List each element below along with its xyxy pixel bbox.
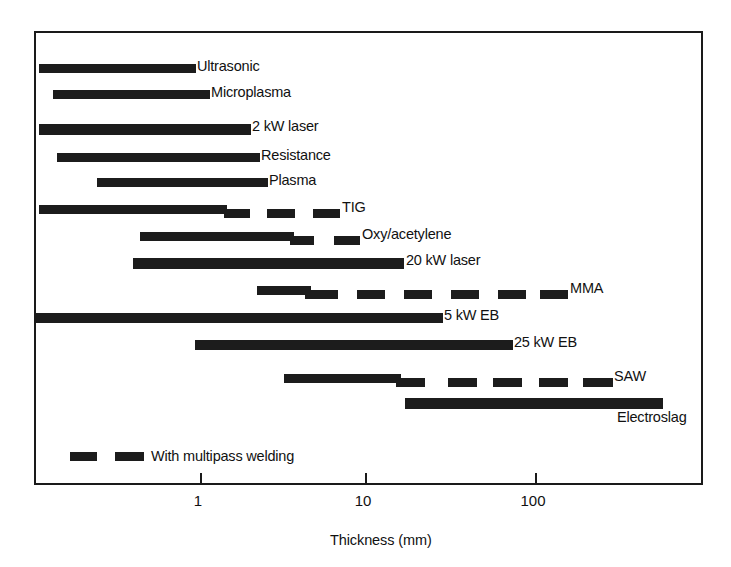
bar-segment-primary [195,340,513,350]
bar-row [36,205,701,227]
legend-swatch [70,452,97,461]
bar-segment-primary [284,374,401,383]
bar-row [36,153,701,175]
bar-segment-primary [39,124,251,135]
bar-row [36,398,701,420]
legend-label: With multipass welding [151,448,294,464]
x-tick-mark [365,473,367,483]
bar-label: 5 kW EB [444,308,499,323]
bar-label: Resistance [261,148,331,163]
bar-segment-multipass [498,290,526,299]
bar-segment-multipass [451,290,479,299]
bar-row [36,258,701,280]
bar-label: Electroslag [617,410,687,425]
bar-segment-primary [39,64,196,73]
bar-segment-multipass [540,290,568,299]
bar-label: MMA [570,281,603,296]
bar-segment-primary [53,90,210,99]
bar-segment-primary [133,258,404,269]
bar-row [36,313,701,335]
bar-segment-primary [257,286,311,295]
bar-segment-multipass [396,378,425,387]
bar-label: Plasma [269,173,316,188]
bar-segment-multipass [539,378,568,387]
bar-segment-multipass [493,378,522,387]
x-tick-mark [535,473,537,483]
bar-segment-multipass [305,290,338,299]
x-tick-mark [200,473,202,483]
bar-segment-multipass [357,290,385,299]
bar-segment-multipass [313,209,340,218]
x-tick-label: 10 [355,492,372,509]
plot-frame: With multipass welding [34,31,703,485]
welding-thickness-chart: With multipass welding UltrasonicMicropl… [0,0,731,567]
bar-label: TIG [342,200,366,215]
bar-row [36,340,701,362]
bar-row [36,374,701,396]
bar-label: Ultrasonic [197,59,259,74]
bar-label: Microplasma [211,85,291,100]
bar-segment-multipass [448,378,477,387]
bar-label: SAW [614,369,646,384]
bar-segment-multipass [583,378,613,387]
bar-segment-multipass [404,290,432,299]
x-tick-label: 1 [194,492,202,509]
legend-swatch [115,452,144,461]
bar-label: 20 kW laser [406,253,480,268]
bar-row [36,64,701,86]
bar-row [36,90,701,112]
bar-segment-primary [39,205,227,214]
bar-segment-multipass [267,209,295,218]
bar-label: 2 kW laser [252,119,319,134]
x-tick-label: 100 [520,492,545,509]
x-axis-title: Thickness (mm) [330,532,432,548]
bar-segment-primary [405,398,663,409]
bar-label: 25 kW EB [514,335,577,350]
bar-segment-multipass [334,236,360,245]
bar-row [36,178,701,200]
bar-segment-primary [140,232,294,241]
bar-segment-primary [36,313,443,323]
bar-label: Oxy/acetylene [362,227,451,242]
bar-segment-multipass [290,236,314,245]
bar-segment-multipass [224,209,250,218]
bar-row [36,124,701,146]
bar-segment-primary [97,178,268,187]
bar-segment-primary [57,153,260,162]
